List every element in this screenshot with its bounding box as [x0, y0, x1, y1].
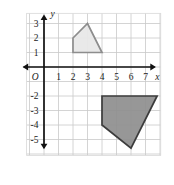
y-tick-label: 2	[34, 33, 39, 43]
y-tick-label: -3	[31, 106, 39, 116]
x-tick-label: 4	[100, 72, 105, 82]
x-tick-label: 2	[71, 72, 76, 82]
origin-label: O	[32, 72, 39, 82]
coordinate-plane-figure: 1234567321-2-3-4-5Oxy	[0, 0, 174, 185]
y-axis-name: y	[50, 9, 56, 19]
x-tick-label: 7	[143, 72, 148, 82]
x-axis-name: x	[154, 72, 160, 82]
x-tick-label: 3	[85, 72, 90, 82]
y-tick-label: 3	[34, 19, 39, 29]
x-tick-label: 5	[114, 72, 119, 82]
y-tick-label: 1	[34, 48, 39, 58]
y-tick-label: -2	[31, 91, 39, 101]
coordinate-plane-svg: 1234567321-2-3-4-5Oxy	[0, 0, 174, 185]
x-tick-label: 6	[129, 72, 134, 82]
y-tick-label: -4	[31, 120, 39, 130]
x-tick-label: 1	[56, 72, 61, 82]
y-tick-label: -5	[31, 135, 39, 145]
